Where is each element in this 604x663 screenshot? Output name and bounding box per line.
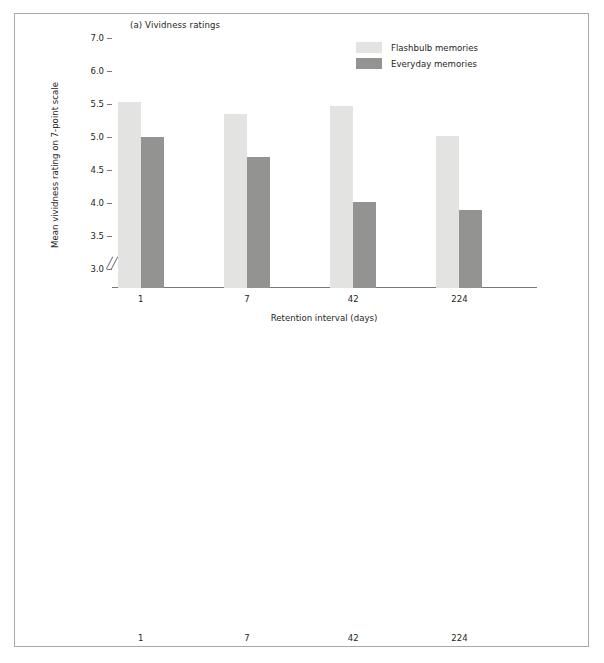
y-tick-mark (107, 71, 112, 72)
chart-a-title: (a) Vividness ratings (130, 20, 220, 30)
y-tick-label: 5.5 (90, 99, 104, 109)
figure-page: (a) Vividness ratings Mean vividness rat… (0, 0, 604, 663)
y-tick-label: 3.0 (90, 264, 104, 274)
x-tick-label: 42 (348, 633, 359, 643)
x-tick-label: 1 (138, 633, 143, 643)
chart-a-y-axis-title: Mean vividness rating on 7-point scale (50, 82, 60, 248)
chart-panel-consistency: (b) Consistency Consistency based on num… (0, 330, 604, 663)
y-tick-mark (107, 38, 112, 39)
bar-everyday-42 (353, 202, 376, 288)
y-tick-mark (107, 170, 112, 171)
bar-flashbulb-1 (118, 102, 141, 288)
bar-flashbulb-42 (330, 106, 353, 288)
x-tick-label: 1 (138, 294, 143, 304)
y-tick-mark (107, 104, 112, 105)
y-tick-label: 5.0 (90, 132, 104, 142)
y-tick-mark (107, 236, 112, 237)
x-tick-label: 224 (451, 294, 467, 304)
y-tick-label: 6.0 (90, 66, 104, 76)
y-tick-mark (107, 137, 112, 138)
y-tick-label: 7.0 (90, 33, 104, 43)
bar-flashbulb-7 (224, 114, 247, 288)
chart-a-x-axis-title: Retention interval (days) (271, 313, 378, 323)
y-tick-mark (107, 203, 112, 204)
y-tick-label: 3.5 (90, 231, 104, 241)
x-tick-label: 224 (451, 633, 467, 643)
bar-everyday-7 (247, 157, 270, 288)
x-tick-label: 7 (244, 294, 249, 304)
bar-everyday-1 (141, 137, 164, 288)
y-tick-label: 4.5 (90, 165, 104, 175)
y-tick-mark (107, 269, 112, 270)
bar-flashbulb-224 (436, 136, 459, 288)
y-tick-label: 4.0 (90, 198, 104, 208)
chart-a-plot-area: 7.06.05.55.04.54.03.53.0 (112, 38, 537, 288)
chart-panel-vividness: (a) Vividness ratings Mean vividness rat… (0, 0, 604, 340)
x-tick-label: 7 (244, 633, 249, 643)
bar-everyday-224 (459, 210, 482, 288)
x-tick-label: 42 (348, 294, 359, 304)
